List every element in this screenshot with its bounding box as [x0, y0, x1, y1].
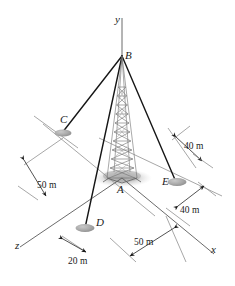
cable-bc	[62, 56, 122, 133]
dimension-50m-left: 50 m	[37, 181, 56, 191]
z-axis-label: z	[15, 240, 19, 251]
point-c-label: C	[60, 114, 67, 125]
node-e-marker	[168, 178, 187, 186]
z-axis-line	[20, 178, 122, 247]
node-d-marker	[76, 224, 95, 232]
point-d-label: D	[96, 217, 104, 228]
point-b-label: B	[125, 50, 132, 61]
axis-lines	[20, 18, 214, 254]
tower-statics-figure: y B C A E D z x 50 m 40 m 40 m 20 m 50 m	[0, 0, 235, 286]
node-c-marker	[55, 129, 72, 136]
x-axis-label: x	[211, 244, 216, 255]
dimension-50m-bottom: 50 m	[134, 238, 153, 248]
cable-bd	[85, 56, 122, 228]
dimension-20m-bottom-left: 20 m	[68, 257, 87, 267]
point-e-label: E	[162, 176, 169, 187]
dimension-40m-lower-right: 40 m	[180, 206, 199, 216]
dimension-40m-upper-right: 40 m	[184, 142, 203, 152]
cable-be	[122, 56, 176, 182]
point-a-label: A	[117, 184, 124, 195]
y-axis-label: y	[115, 14, 120, 25]
